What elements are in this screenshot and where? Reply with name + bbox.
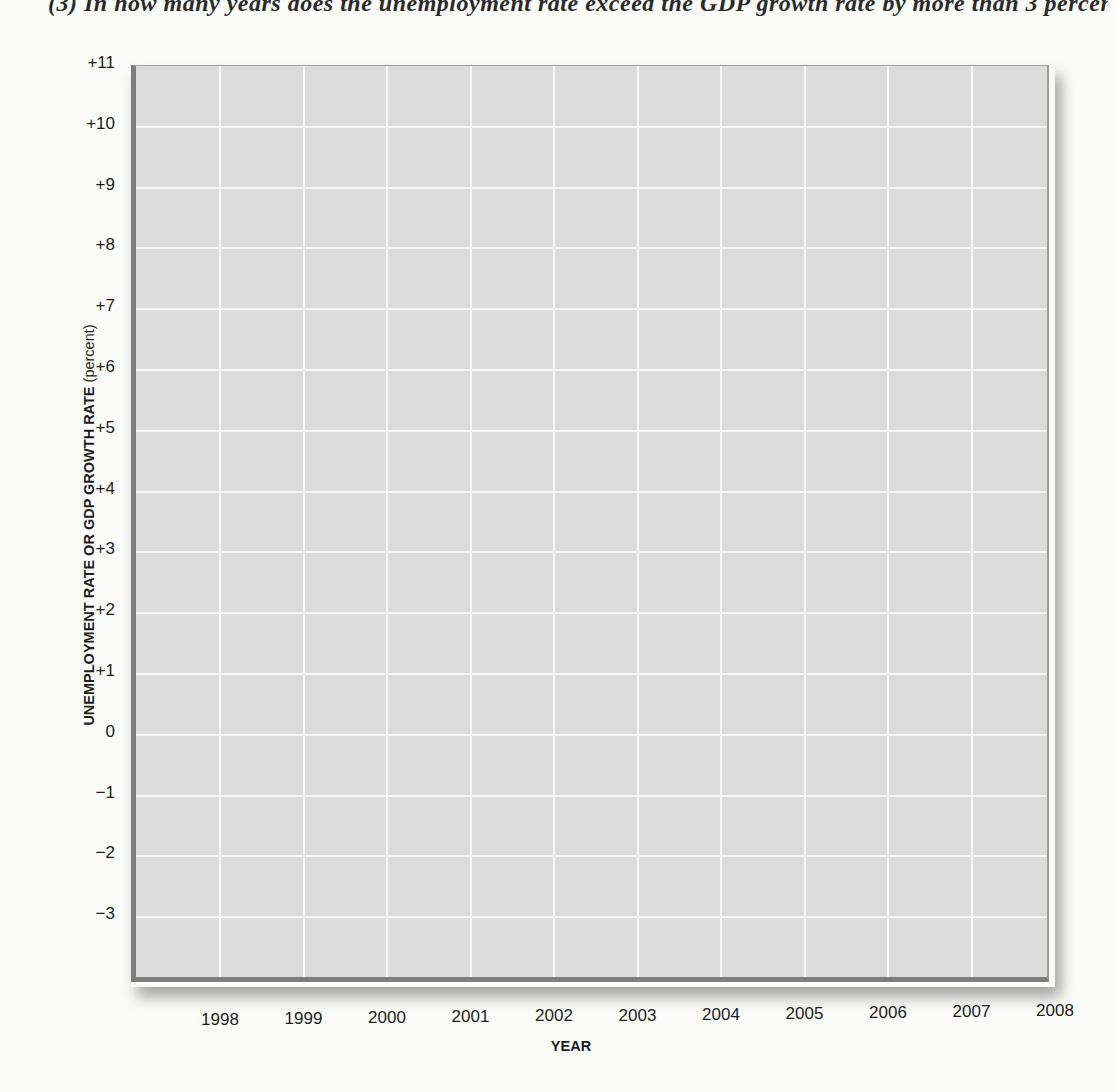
gridline-horizontal (136, 369, 1047, 371)
y-tick-label: −1 (55, 783, 115, 803)
x-axis-title: YEAR (551, 1038, 591, 1054)
gridline-horizontal (136, 126, 1047, 128)
gridline-vertical (804, 66, 806, 977)
gridline-horizontal (136, 734, 1047, 736)
gridline-horizontal (136, 612, 1047, 614)
gridline-horizontal (136, 551, 1047, 553)
gridline-horizontal (136, 916, 1047, 918)
gridline-horizontal (136, 491, 1047, 493)
y-axis-title: UNEMPLOYMENT RATE OR GDP GROWTH RATE (pe… (81, 324, 97, 725)
x-tick-label: 2003 (608, 1006, 668, 1026)
gridline-vertical (553, 66, 555, 977)
x-tick-label: 2005 (775, 1004, 835, 1024)
gridline-vertical (887, 66, 889, 977)
y-tick-label: −3 (55, 904, 115, 924)
gridline-vertical (219, 66, 221, 977)
y-tick-label: +10 (55, 114, 115, 134)
gridline-vertical (971, 66, 973, 977)
gridline-horizontal (136, 187, 1047, 189)
y-tick-label: +7 (55, 296, 115, 316)
question-text: (3) In how many years does the unemploym… (48, 0, 1108, 17)
gridline-horizontal (136, 430, 1047, 432)
y-tick-label: +9 (55, 175, 115, 195)
plot-area (131, 65, 1049, 982)
x-tick-label: 2000 (357, 1008, 417, 1028)
x-tick-label: 2004 (691, 1005, 751, 1025)
y-tick-label: +11 (55, 53, 115, 73)
x-tick-label: 2002 (524, 1006, 584, 1026)
gridline-vertical (637, 66, 639, 977)
gridline-horizontal (136, 673, 1047, 675)
gridline-horizontal (136, 795, 1047, 797)
x-tick-label: 2006 (858, 1003, 918, 1023)
y-axis-title-unit: (percent) (81, 324, 97, 382)
y-axis-title-label: UNEMPLOYMENT RATE OR GDP GROWTH RATE (81, 386, 97, 725)
x-tick-label: 2001 (441, 1007, 501, 1027)
gridline-vertical (720, 66, 722, 977)
x-tick-label: 1999 (274, 1009, 334, 1029)
gridline-horizontal (136, 855, 1047, 857)
gridline-vertical (386, 66, 388, 977)
x-tick-label: 2008 (1025, 1001, 1085, 1021)
gridline-vertical (470, 66, 472, 977)
y-tick-label: −2 (55, 843, 115, 863)
gridline-horizontal (136, 247, 1047, 249)
gridline-vertical (303, 66, 305, 977)
x-tick-label: 2007 (942, 1002, 1002, 1022)
y-tick-label: +8 (55, 235, 115, 255)
x-tick-label: 1998 (190, 1010, 250, 1030)
gridline-horizontal (136, 308, 1047, 310)
